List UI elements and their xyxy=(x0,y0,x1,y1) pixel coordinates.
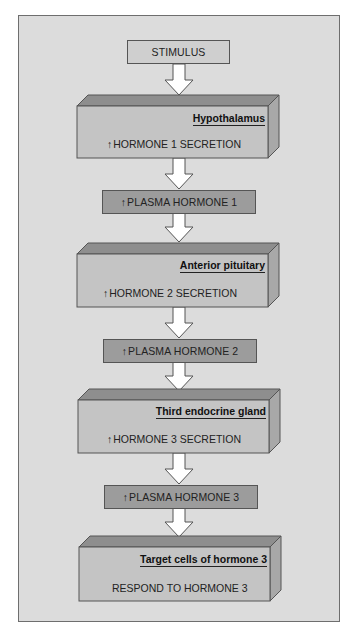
stage-title: Third endocrine gland xyxy=(156,405,266,419)
stimulus-label: STIMULUS xyxy=(152,46,206,58)
up-arrow-icon: ↑ xyxy=(107,138,112,150)
plasma-box-1: ↑PLASMA HORMONE 1 xyxy=(102,190,256,214)
plasma-box-3: ↑PLASMA HORMONE 3 xyxy=(104,485,258,509)
stage-title: Anterior pituitary xyxy=(180,259,265,273)
stage-box-anterior-pituitary: Anterior pituitary ↑HORMONE 2 SECRETION xyxy=(77,243,280,308)
stage-title: Target cells of hormone 3 xyxy=(140,553,267,567)
stage-text: RESPOND TO HORMONE 3 xyxy=(112,582,248,594)
up-arrow-icon: ↑ xyxy=(122,345,127,357)
up-arrow-icon: ↑ xyxy=(107,433,112,445)
stage-box-third-endocrine-gland: Third endocrine gland ↑HORMONE 3 SECRETI… xyxy=(78,389,281,454)
stimulus-box: STIMULUS xyxy=(127,40,230,64)
down-arrow-icon xyxy=(164,213,194,243)
down-arrow-icon xyxy=(164,453,194,485)
plasma-box-2: ↑PLASMA HORMONE 2 xyxy=(103,339,257,363)
stage-text: ↑HORMONE 1 SECRETION xyxy=(107,138,241,150)
down-arrow-icon xyxy=(164,64,194,96)
stage-box-target-cells: Target cells of hormone 3 RESPOND TO HOR… xyxy=(79,536,282,602)
down-arrow-icon xyxy=(164,307,194,339)
up-arrow-icon: ↑ xyxy=(121,196,126,208)
stage-title: Hypothalamus xyxy=(193,112,265,126)
stage-text: ↑HORMONE 2 SECRETION xyxy=(103,287,237,299)
down-arrow-icon xyxy=(164,362,194,392)
up-arrow-icon: ↑ xyxy=(123,491,128,503)
down-arrow-icon xyxy=(164,158,194,190)
stage-text: ↑HORMONE 3 SECRETION xyxy=(107,433,241,445)
up-arrow-icon: ↑ xyxy=(103,287,108,299)
stage-box-hypothalamus: Hypothalamus ↑HORMONE 1 SECRETION xyxy=(77,95,280,159)
down-arrow-icon xyxy=(164,508,194,538)
